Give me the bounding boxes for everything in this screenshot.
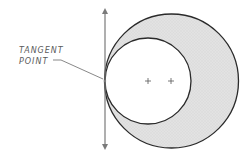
tangent-circles-diagram: TANGENT POINT [0, 0, 251, 158]
tangent-label-line2: POINT [19, 57, 48, 66]
tangent-point-dot [104, 80, 106, 82]
tangent-label-line1: TANGENT [19, 46, 64, 55]
leader-line [53, 60, 103, 79]
